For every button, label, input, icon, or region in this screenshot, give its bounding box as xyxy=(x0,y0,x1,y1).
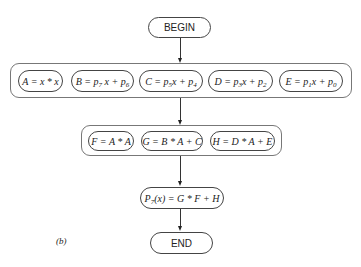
node-d: D = p3x + p2 xyxy=(208,70,273,92)
node-b-formula: B = p7 x + p6 xyxy=(76,76,130,87)
node-f: F = A * A xyxy=(88,131,134,151)
node-b: B = p7 x + p6 xyxy=(71,70,134,92)
arrowhead-icon xyxy=(178,181,182,186)
node-h-formula: H = D * A + E xyxy=(213,136,273,147)
figure-caption: (b) xyxy=(56,236,67,246)
begin-node: BEGIN xyxy=(148,17,211,38)
end-label: END xyxy=(171,238,192,249)
arrowhead-icon xyxy=(178,226,182,231)
node-e-formula: E = p1x + p0 xyxy=(285,76,336,87)
connector-stage1-stage2 xyxy=(180,98,181,121)
node-f-formula: F = A * A xyxy=(91,136,131,147)
node-g-formula: G = B * A + C xyxy=(142,136,201,147)
node-c-formula: C = p5x + p4 xyxy=(145,76,197,87)
connector-final-end xyxy=(180,209,181,227)
node-h: H = D * A + E xyxy=(210,131,275,151)
node-a: A = x * x xyxy=(18,70,63,92)
connector-begin-stage1 xyxy=(180,38,181,59)
node-e: E = p1x + p0 xyxy=(279,70,343,92)
node-p7: P7(x) = G * F + H xyxy=(140,187,224,209)
node-d-formula: D = p3x + p2 xyxy=(214,76,266,87)
end-node: END xyxy=(150,232,213,254)
node-p7-formula: P7(x) = G * F + H xyxy=(145,193,220,204)
node-a-formula: A = x * x xyxy=(22,76,59,87)
node-c: C = p5x + p4 xyxy=(139,70,203,92)
node-g: G = B * A + C xyxy=(141,131,203,151)
connector-stage2-final xyxy=(180,156,181,182)
begin-label: BEGIN xyxy=(164,22,195,33)
